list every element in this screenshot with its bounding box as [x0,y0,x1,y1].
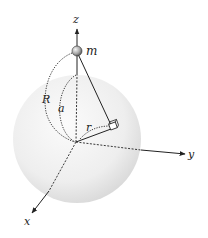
r-label: r [86,121,92,134]
z-axis-label: z [72,13,79,26]
mass-sphere-icon [72,46,82,56]
sphere [13,75,141,203]
x-axis [32,191,49,213]
R-label: R [41,93,50,106]
a-label: a [58,102,65,115]
x-axis-label: x [24,215,31,228]
y-axis [141,150,185,154]
sphere-gravitation-diagram: z m R a r y x [0,0,208,238]
mass-label: m [86,44,97,58]
y-axis-label: y [187,148,195,161]
